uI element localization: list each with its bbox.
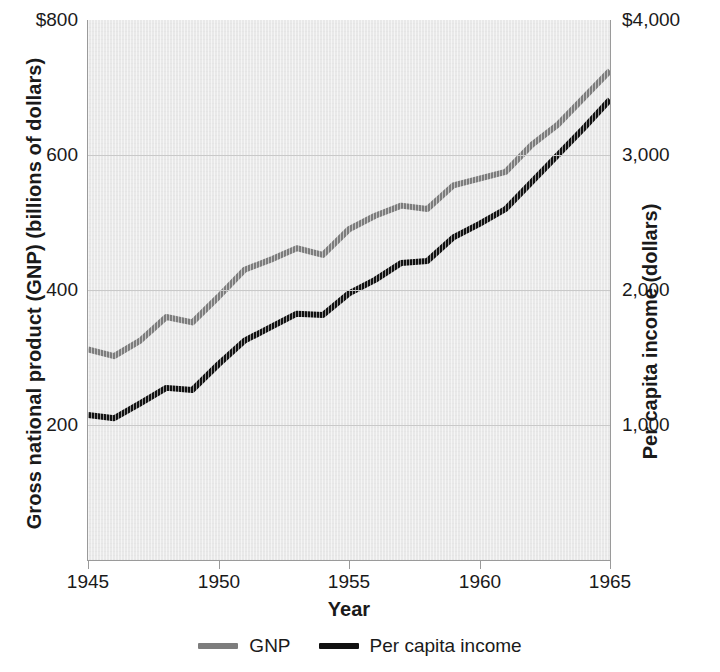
gridline [88, 155, 610, 156]
x-axis-tick-label: 1960 [435, 572, 525, 592]
legend-item-gnp: GNP [198, 636, 290, 656]
x-axis-tick-label: 1965 [565, 572, 655, 592]
series-line-gnp [88, 71, 610, 357]
chart-figure: 200400600$800 1,0002,0003,000$4,000 1945… [0, 0, 720, 672]
y-axis-left-line [87, 20, 88, 561]
x-axis-title: Year [88, 598, 610, 621]
legend-label-gnp: GNP [249, 636, 290, 656]
x-axis-tick [349, 561, 350, 569]
y-axis-right-title: Per capita income (dollars) [639, 122, 662, 542]
y-axis-right-tick-label: 3,000 [622, 145, 718, 164]
x-axis-tick-label: 1950 [174, 572, 264, 592]
gridline [88, 290, 610, 291]
y-axis-right-line [610, 20, 611, 561]
legend-item-per-capita-income: Per capita income [319, 636, 522, 656]
legend-swatch-per-capita-income [319, 643, 359, 649]
x-axis-tick [219, 561, 220, 569]
x-axis-tick [88, 561, 89, 569]
gridline [88, 425, 610, 426]
legend-swatch-gnp [198, 643, 238, 649]
chart-legend: GNP Per capita income [0, 636, 720, 656]
y-axis-right-tick-label: 2,000 [622, 280, 718, 299]
plot-area [88, 20, 610, 560]
x-axis-tick [480, 561, 481, 569]
legend-label-per-capita-income: Per capita income [370, 636, 522, 656]
y-axis-right-tick-label: 1,000 [622, 415, 718, 434]
x-axis-tick-label: 1955 [304, 572, 394, 592]
y-axis-left-title: Gross national product (GNP) (billions o… [23, 24, 46, 564]
x-axis-tick-label: 1945 [43, 572, 133, 592]
y-axis-right-tick-label: $4,000 [622, 10, 718, 29]
x-axis-tick [610, 561, 611, 569]
